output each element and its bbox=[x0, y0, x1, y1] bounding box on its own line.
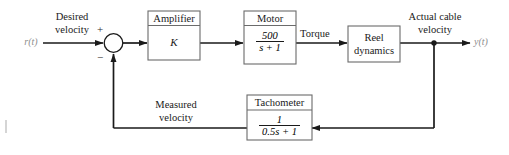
actual-cable-velocity-line2: velocity bbox=[418, 24, 452, 35]
reel-dynamics-line2: dynamics bbox=[354, 45, 394, 56]
summing-minus-sign: − bbox=[94, 51, 106, 63]
amplifier-body: K bbox=[148, 36, 200, 48]
tachometer-transfer-function: 1 0.5s + 1 bbox=[247, 114, 312, 139]
desired-velocity-line1: Desired bbox=[56, 11, 89, 22]
input-variable-label: r(t) bbox=[18, 36, 44, 47]
measured-velocity-label: Measured velocity bbox=[140, 98, 212, 124]
summing-junction-circle bbox=[104, 34, 123, 53]
output-variable-label: y(t) bbox=[474, 36, 502, 47]
tachometer-denominator: 0.5s + 1 bbox=[259, 125, 300, 137]
reel-dynamics-line1: Reel bbox=[364, 32, 383, 43]
summing-plus-sign: + bbox=[94, 23, 106, 35]
motor-denominator: s + 1 bbox=[256, 41, 284, 53]
actual-cable-velocity-label: Actual cable velocity bbox=[396, 10, 474, 36]
desired-velocity-line2: velocity bbox=[55, 24, 89, 35]
motor-transfer-function: 500 s + 1 bbox=[244, 30, 296, 55]
motor-title: Motor bbox=[244, 13, 296, 25]
amplifier-title: Amplifier bbox=[148, 13, 200, 25]
motor-numerator: 500 bbox=[256, 30, 284, 41]
torque-label: Torque bbox=[300, 27, 346, 40]
reel-dynamics-body: Reel dynamics bbox=[348, 31, 400, 57]
measured-velocity-line1: Measured bbox=[155, 99, 196, 110]
block-diagram-canvas: Desired velocity r(t) + − Amplifier K Mo… bbox=[0, 0, 509, 155]
actual-cable-velocity-line1: Actual cable bbox=[409, 11, 462, 22]
tachometer-numerator: 1 bbox=[259, 114, 300, 125]
tachometer-title: Tachometer bbox=[247, 97, 312, 109]
measured-velocity-line2: velocity bbox=[159, 112, 193, 123]
